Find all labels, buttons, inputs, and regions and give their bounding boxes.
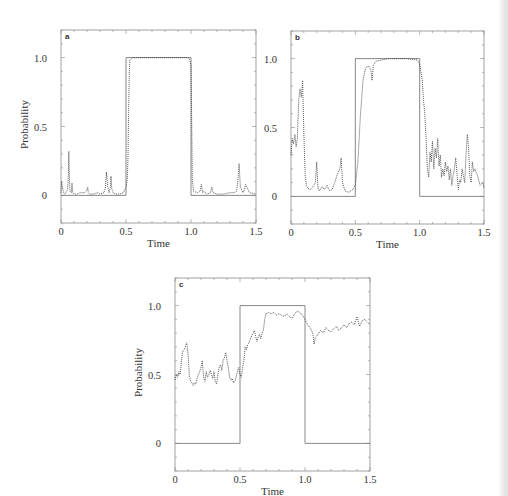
x-tick-label: 1.0 — [413, 227, 426, 238]
probability-trace — [61, 58, 256, 195]
x-tick-label: 1.0 — [184, 226, 197, 237]
plot-frame — [175, 278, 370, 471]
x-tick-label: 0 — [172, 474, 177, 485]
probability-trace — [175, 311, 370, 385]
panel-letter: c — [179, 280, 184, 289]
step-line — [61, 58, 256, 196]
y-tick-label: 0 — [42, 190, 47, 201]
x-tick-label: 0 — [58, 226, 63, 237]
x-tick-label: 1.5 — [249, 226, 262, 237]
chart-canvas: 00.51.01.500.51.0TimeProbabilitya00.51.0… — [0, 0, 508, 496]
step-line — [291, 59, 484, 197]
panel-letter: b — [295, 33, 300, 42]
x-tick-label: 1.5 — [477, 227, 490, 238]
y-tick-label: 0 — [156, 438, 161, 449]
y-tick-label: 1.0 — [34, 53, 47, 64]
panel-b: 00.51.01.500.51.0Timeb — [264, 31, 491, 250]
y-axis-label: Probability — [18, 100, 30, 149]
x-tick-label: 1.0 — [298, 474, 311, 485]
plot-frame — [291, 31, 484, 224]
x-axis-label: Time — [147, 237, 170, 249]
y-tick-label: 0 — [272, 191, 277, 202]
probability-trace — [291, 59, 484, 193]
scan-edge-shadow — [498, 0, 508, 496]
x-tick-label: 0 — [288, 227, 293, 238]
step-line — [175, 306, 370, 444]
x-tick-label: 0.5 — [233, 474, 246, 485]
panel-c: 00.51.01.500.51.0TimeProbabilityc — [132, 278, 377, 496]
y-tick-label: 0.5 — [34, 122, 47, 133]
y-tick-label: 1.0 — [148, 301, 161, 312]
y-tick-label: 0.5 — [148, 370, 161, 381]
x-axis-label: Time — [261, 485, 284, 496]
panel-a: 00.51.01.500.51.0TimeProbabilitya — [18, 30, 263, 249]
x-tick-label: 0.5 — [119, 226, 132, 237]
x-axis-label: Time — [376, 238, 399, 250]
x-tick-label: 1.5 — [363, 474, 376, 485]
panel-letter: a — [65, 32, 70, 41]
y-tick-label: 1.0 — [264, 54, 277, 65]
x-tick-label: 0.5 — [349, 227, 362, 238]
y-axis-label: Probability — [132, 348, 144, 397]
figure: 00.51.01.500.51.0TimeProbabilitya00.51.0… — [0, 0, 508, 496]
y-tick-label: 0.5 — [264, 123, 277, 134]
